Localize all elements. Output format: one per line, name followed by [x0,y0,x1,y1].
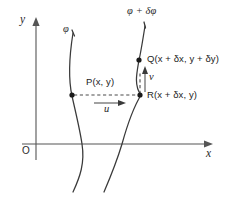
streamline-phi-label: φ [63,24,69,35]
y-axis-arrowhead [32,17,39,26]
diagram-graphics [0,0,234,199]
point-R-dot [137,92,142,97]
y-axis [32,17,39,160]
x-axis-label: x [206,148,211,160]
point-P-label: P(x, y) [86,77,114,87]
streamline-phi-delta-path [104,26,145,192]
point-Q-dot [136,57,141,62]
v-vector-arrowhead [142,66,148,74]
streamline-phi-path [70,33,83,192]
point-Q-label: Q(x + δx, y + δy) [147,54,219,64]
u-vector-label: u [104,104,109,115]
x-axis [22,140,213,147]
point-P-dot [69,92,74,97]
u-vector-arrowhead [118,100,126,106]
origin-label: O [22,146,30,156]
y-axis-label: y [20,14,25,26]
streamline-phi-delta-label: φ + δφ [127,6,156,17]
v-vector-label: v [149,72,154,83]
point-R-label: R(x + δx, y) [147,90,197,100]
figure-canvas: y x O φ φ + δφ P(x, y) Q(x + δx, y + δy)… [0,0,234,199]
